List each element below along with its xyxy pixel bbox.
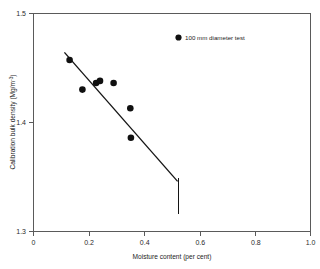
x-tick-label-1-0: 1.0 — [306, 239, 316, 246]
scatter-chart: 1.5 1.4 1.3 0 0.2 0.4 0.6 0.8 1.0 Moistu… — [0, 0, 320, 269]
x-axis-title: Moisture content (per cent) — [133, 253, 212, 261]
data-point — [110, 80, 117, 87]
legend-label: 100 mm diameter test — [185, 34, 245, 41]
data-point — [79, 86, 86, 93]
x-tick-label-0-2: 0.2 — [84, 239, 94, 246]
y-tick-label-1-3: 1.3 — [16, 228, 26, 235]
y-axis-title-main: Calibration bulk density (Mg/m — [9, 80, 17, 169]
data-point — [66, 57, 73, 64]
plot-frame — [33, 13, 311, 232]
x-tick-label-0-4: 0.4 — [140, 239, 150, 246]
data-point — [127, 105, 134, 112]
data-point — [97, 78, 104, 85]
legend: 100 mm diameter test — [175, 34, 245, 41]
svg-text:Calibration bulk density (Mg/m: Calibration bulk density (Mg/m-3) — [9, 74, 17, 169]
data-point — [128, 134, 135, 141]
y-tick-label-1-5: 1.5 — [16, 10, 26, 17]
y-axis-title: Calibration bulk density (Mg/m-3) — [9, 74, 17, 169]
y-tick-label-1-4: 1.4 — [16, 119, 26, 126]
legend-marker-icon — [175, 34, 181, 40]
chart-page: 1.5 1.4 1.3 0 0.2 0.4 0.6 0.8 1.0 Moistu… — [0, 0, 320, 269]
y-axis-ticks: 1.5 1.4 1.3 — [16, 10, 33, 235]
data-points — [66, 57, 134, 141]
x-tick-label-0-6: 0.6 — [195, 239, 205, 246]
regression-line — [64, 52, 177, 181]
y-axis-title-suffix: ) — [9, 74, 17, 76]
x-axis-ticks: 0 0.2 0.4 0.6 0.8 1.0 — [32, 232, 316, 246]
x-tick-label-0: 0 — [32, 239, 36, 246]
x-tick-label-0-8: 0.8 — [251, 239, 261, 246]
